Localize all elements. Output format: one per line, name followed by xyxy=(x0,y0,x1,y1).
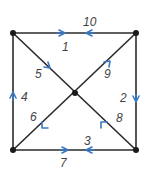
edge-label-8: 8 xyxy=(116,111,123,125)
edge-label-5: 5 xyxy=(35,67,42,81)
arrow-down-left-icon xyxy=(42,122,48,128)
edge-label-7: 7 xyxy=(60,156,68,170)
vertex-center xyxy=(72,90,78,96)
vertex-top-left xyxy=(10,30,16,36)
edge-label-9: 9 xyxy=(104,67,111,81)
vertex-bottom-left xyxy=(10,147,16,153)
edge-label-6: 6 xyxy=(30,110,37,124)
directed-graph-diagram: 1 10 2 3 4 5 6 7 8 9 xyxy=(0,0,146,181)
vertex-top-right xyxy=(133,30,139,36)
edge-label-2: 2 xyxy=(119,91,127,105)
edge-label-3: 3 xyxy=(84,134,91,148)
vertex-bottom-right xyxy=(133,147,139,153)
edge-label-1: 1 xyxy=(62,40,69,54)
edge-label-4: 4 xyxy=(21,90,28,104)
arrow-up-left-icon xyxy=(101,122,107,128)
edge-label-10: 10 xyxy=(83,15,97,29)
